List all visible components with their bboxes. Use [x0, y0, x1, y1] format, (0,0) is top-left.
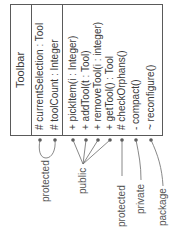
connector-lines — [0, 0, 179, 228]
annotation-label: private — [136, 184, 146, 214]
annotation-label: package — [158, 188, 168, 226]
annotation-label: protected — [41, 160, 51, 202]
annotation-label: public — [78, 168, 88, 194]
annotation-label: protected — [117, 185, 127, 227]
